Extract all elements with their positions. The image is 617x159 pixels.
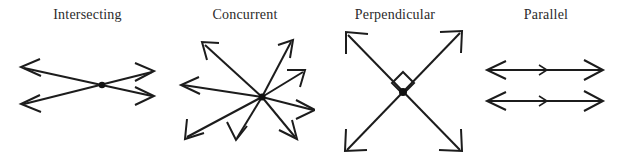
concurrent-point-dot xyxy=(259,94,266,101)
concurrent-artwork xyxy=(175,0,315,159)
intersecting-arrowhead-lower-left xyxy=(21,95,41,112)
intersecting-line-b xyxy=(24,72,152,104)
concurrent-arrowhead-6 xyxy=(296,100,315,119)
parallel-artwork xyxy=(475,0,617,159)
perpendicular-point-dot xyxy=(399,88,407,96)
panel-parallel: Parallel xyxy=(475,0,617,159)
panel-perpendicular: Perpendicular xyxy=(315,0,475,159)
panel-concurrent: Concurrent xyxy=(175,0,315,159)
intersecting-arrowhead-upper-right xyxy=(135,63,154,81)
intersecting-artwork xyxy=(0,0,175,159)
lines-diagram-figure: Intersecting Concurrent xyxy=(0,0,617,159)
perpendicular-artwork xyxy=(315,0,475,159)
intersecting-line-a xyxy=(24,68,152,96)
intersecting-arrowhead-upper-left xyxy=(21,59,41,76)
concurrent-ray-5 xyxy=(262,97,295,137)
intersecting-point-dot xyxy=(99,82,106,89)
panel-intersecting: Intersecting xyxy=(0,0,175,159)
concurrent-ray-6 xyxy=(262,97,313,110)
